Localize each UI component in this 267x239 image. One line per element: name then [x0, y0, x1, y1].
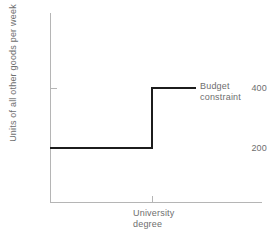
budget-constraint-chart: 400 200 Budget constraint Units of all o… — [0, 0, 267, 239]
x-axis-title-line1: University — [133, 208, 175, 219]
legend-label-budget-constraint: Budget constraint — [200, 81, 241, 103]
budget-constraint-segment-riser — [151, 87, 153, 149]
y-tick-label-200: 200 — [221, 143, 267, 153]
x-axis-title: University degree — [133, 208, 175, 230]
x-tick-mark-university-degree — [152, 196, 153, 202]
legend-label-line2: constraint — [200, 92, 241, 103]
y-axis-title: Units of all other goods per week — [8, 0, 18, 148]
x-axis-line — [50, 202, 262, 203]
y-axis-line — [50, 13, 51, 203]
legend: Budget constraint — [186, 81, 241, 103]
legend-line-swatch-icon — [186, 87, 196, 89]
budget-constraint-segment-low — [50, 147, 153, 149]
y-tick-mark-400 — [51, 88, 57, 89]
x-axis-title-line2: degree — [133, 219, 175, 230]
legend-label-line1: Budget — [200, 81, 241, 92]
